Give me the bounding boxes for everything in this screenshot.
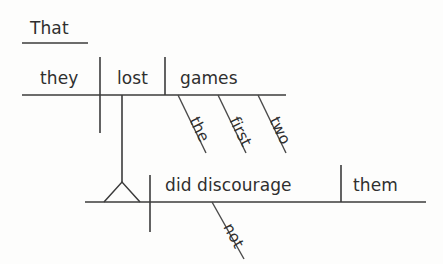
- subordinate-object-label: games: [180, 70, 238, 87]
- main-object-label: them: [353, 177, 398, 194]
- pedestal-triangle-icon: [104, 182, 140, 202]
- diagram-canvas: [0, 0, 443, 264]
- subordinate-verb-label: lost: [117, 70, 148, 87]
- sentence-diagram: That they lost games the first two did d…: [0, 0, 443, 264]
- introducer-label: That: [30, 20, 69, 37]
- subordinate-subject-label: they: [40, 70, 78, 87]
- main-verb-label: did discourage: [165, 177, 292, 194]
